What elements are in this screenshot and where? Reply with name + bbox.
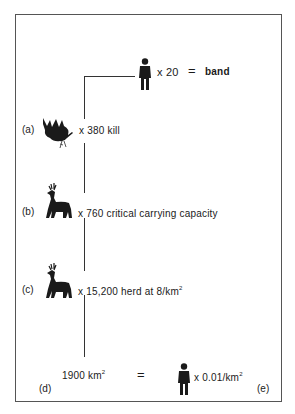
label-d: (d) [39, 383, 51, 394]
row-a-label: (a) [22, 124, 34, 135]
deer-icon [42, 262, 74, 300]
row-c-label: (c) [22, 284, 34, 295]
band-equals: = [188, 63, 196, 78]
area-text: 1900 km [62, 370, 102, 381]
row-c-sup: 2 [179, 285, 183, 291]
connector-ab [84, 143, 85, 193]
band-label: band [205, 66, 230, 77]
connector-top [84, 76, 135, 77]
label-e: (e) [257, 383, 269, 394]
row-c-main: x 15,200 herd at 8/km [78, 286, 179, 297]
human-figure-icon [138, 58, 152, 91]
connector-cd [84, 295, 85, 357]
human-figure-icon [177, 363, 191, 396]
density-value: x 0.01/km2 [194, 372, 243, 383]
row-b-text: x 760 critical carrying capacity [78, 208, 218, 219]
density-text: x 0.01/km [194, 372, 239, 383]
area-sup: 2 [102, 369, 106, 375]
connector-bc [84, 218, 85, 271]
dead-deer-icon [40, 114, 76, 150]
row-a-text: x 380 kill [79, 125, 120, 136]
area-value: 1900 km2 [62, 370, 105, 381]
bottom-equals: = [137, 367, 145, 382]
row-c-text: x 15,200 herd at 8/km2 [78, 286, 182, 297]
row-b-label: (b) [22, 206, 34, 217]
deer-icon [42, 182, 74, 220]
density-sup: 2 [239, 371, 243, 377]
band-multiplier: x 20 [157, 66, 179, 78]
connector-a [84, 76, 85, 119]
